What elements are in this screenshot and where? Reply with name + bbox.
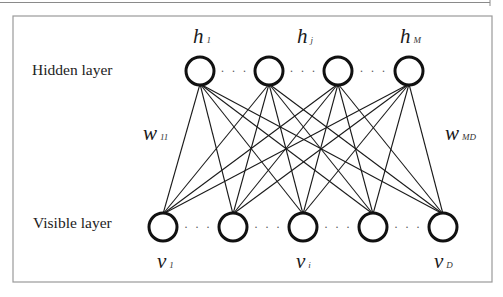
visible-ellipsis: · · · xyxy=(184,220,212,234)
visible-ellipsis: · · · xyxy=(394,220,422,234)
hidden-node-h4 xyxy=(395,57,423,85)
visible-node-v3 xyxy=(289,213,317,241)
visible-node-v2 xyxy=(219,213,247,241)
visible-node-v1 xyxy=(149,213,177,241)
hidden-ellipsis: · · · xyxy=(221,64,249,78)
hidden-ellipsis: · · · xyxy=(290,64,318,78)
hidden-node-h1 xyxy=(186,57,214,85)
hidden-node-h3 xyxy=(324,57,352,85)
rbm-diagram: · · ·· · ·· · ·· · ·· · ·· · ·· · · h1hj… xyxy=(0,0,503,297)
hidden-ellipsis: · · · xyxy=(360,64,388,78)
figure-box xyxy=(13,16,492,282)
visible-ellipsis: · · · xyxy=(254,220,282,234)
visible-node-v5 xyxy=(429,213,457,241)
visible-node-v4 xyxy=(359,213,387,241)
hidden-layer-label: Hidden layer xyxy=(32,61,113,78)
visible-ellipsis: · · · xyxy=(324,220,352,234)
visible-layer-label: Visible layer xyxy=(33,214,113,231)
hidden-node-h2 xyxy=(255,57,283,85)
